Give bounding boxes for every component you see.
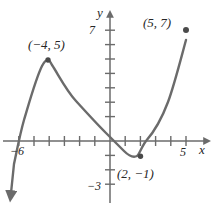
- cartesian-plot-svg: [0, 0, 213, 208]
- point-label-endpoint: (5, 7): [143, 16, 171, 29]
- y-tick-label-7: 7: [89, 24, 95, 36]
- x-tick-label-negative-6: −6: [10, 145, 24, 157]
- point-label-local-max: (−4, 5): [28, 38, 65, 51]
- x-tick-label-5: 5: [180, 146, 186, 158]
- graph-figure: y x 7 −3 −6 5 (−4, 5) (2, −1) (5, 7): [0, 0, 213, 208]
- marked-point-local-min: [138, 154, 143, 159]
- y-tick-label-negative-3: −3: [87, 180, 101, 192]
- cubic-curve: [11, 40, 186, 193]
- marked-point-endpoint: [183, 27, 189, 33]
- y-axis-label: y: [97, 6, 103, 19]
- x-axis-label: x: [199, 143, 205, 156]
- point-label-local-min: (2, −1): [117, 167, 154, 180]
- marked-point-local-max: [45, 57, 50, 62]
